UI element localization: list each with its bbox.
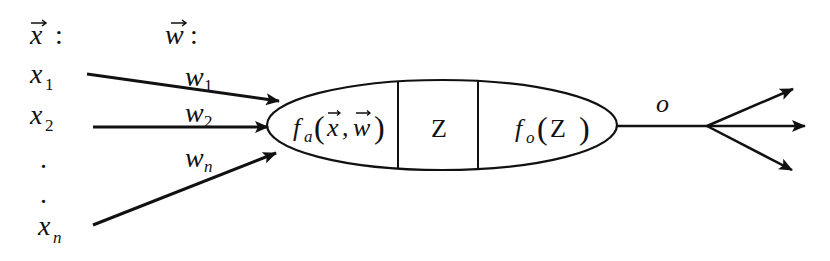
input-subscript: 1	[45, 75, 54, 94]
weights-vector-label: w :	[165, 19, 198, 50]
activation-func-subscript: a	[304, 127, 313, 146]
weight-w1: w 1	[185, 61, 213, 95]
open-paren: (	[314, 109, 325, 145]
output-branch-up	[707, 89, 793, 126]
inputs-vector-colon: :	[55, 19, 63, 50]
input-subscript: n	[53, 228, 62, 247]
output-branch-down	[707, 126, 792, 170]
input-x2: x 2	[29, 99, 54, 135]
ellipsis-dot: .	[40, 178, 47, 209]
weight-symbol: w	[185, 61, 204, 92]
weight-subscript: 1	[204, 76, 213, 95]
output-func-symbol: f	[515, 114, 526, 143]
output-func-subscript: o	[526, 128, 535, 147]
weight-subscript: 2	[204, 112, 213, 131]
comma: ,	[342, 113, 349, 142]
input-symbol: x	[37, 210, 51, 241]
close-paren: )	[579, 110, 590, 146]
activation-arg-w: w	[353, 113, 371, 142]
input-xn: x n	[37, 210, 62, 247]
output-label: o	[656, 89, 669, 118]
state-label: Z	[431, 114, 447, 143]
activation-func-symbol: f	[293, 113, 304, 142]
input-symbol: x	[29, 99, 43, 130]
input-symbol: x	[29, 58, 43, 89]
weight-w2: w 2	[185, 97, 213, 131]
weight-symbol: w	[185, 142, 204, 173]
input-arrow-1	[87, 74, 279, 101]
ellipsis-dot: .	[40, 143, 47, 174]
neuron-diagram-svg: x ⃗ : w : x 1 x 2 . . x n w 1 w 2 w n	[0, 0, 830, 261]
weight-wn: w n	[185, 142, 213, 176]
activation-arg-x: x	[326, 113, 339, 142]
output-function-label: f o ( Z )	[515, 110, 590, 147]
weights-vector-colon: :	[190, 19, 198, 50]
input-subscript: 2	[45, 116, 54, 135]
open-paren: (	[537, 110, 548, 146]
input-ellipsis: . .	[40, 143, 47, 209]
activation-function-label: f a ( x , w )	[293, 109, 385, 146]
weight-symbol: w	[185, 97, 204, 128]
inputs-vector-label: x ⃗ :	[29, 19, 63, 50]
input-x1: x 1	[29, 58, 54, 94]
neuron-diagram: x ⃗ : w : x 1 x 2 . . x n w 1 w 2 w n	[0, 0, 830, 261]
close-paren: )	[374, 109, 385, 145]
weight-subscript: n	[204, 157, 213, 176]
output-func-arg: Z	[550, 114, 566, 143]
